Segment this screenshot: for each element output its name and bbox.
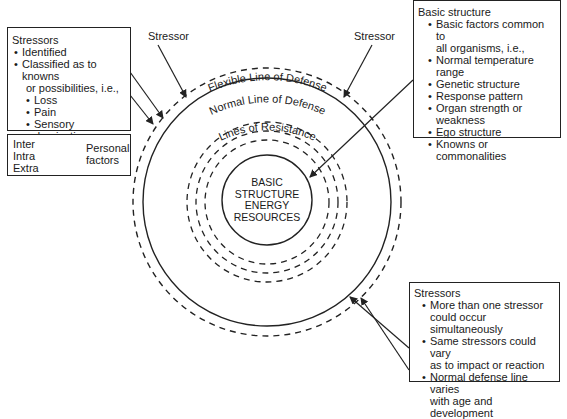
factor-intra: Intra	[13, 150, 39, 162]
factor-extra: Extra	[13, 162, 39, 174]
list-item: or possibilities, i.e.,	[12, 82, 126, 94]
stressor-arrow-top-right	[344, 45, 372, 97]
list-item: Same stressors could vary	[420, 335, 555, 359]
list-item: Identified	[12, 46, 126, 58]
list-item: Organ strength or	[426, 102, 556, 114]
box-title: Stressors	[414, 287, 555, 299]
list-item: Loss	[12, 94, 126, 106]
list-item: Knowns or commonalities	[426, 138, 556, 162]
personal-factors-label: Personal	[86, 142, 129, 154]
center-label: BASIC STRUCTURE ENERGY RESOURCES	[222, 177, 312, 223]
resistance-lines-label: Lines of Resistance	[217, 120, 318, 142]
stressor-arrow-top-left	[158, 45, 186, 97]
stressor-arrow-bottom-right-1	[350, 297, 409, 348]
stressors-box-left: Stressors Identified Classified as to kn…	[7, 27, 131, 131]
factor-inter: Inter	[13, 138, 39, 150]
basic-structure-pointer-arrow	[310, 80, 413, 177]
list-item: Classified as to knowns	[12, 58, 126, 82]
normal-line-label: Normal Line of Defense	[207, 92, 327, 117]
stressor-label-right: Stressor	[354, 30, 395, 42]
basic-structure-box: Basic structure Basic factors common to …	[413, 0, 561, 138]
list-item: Basic factors common to	[426, 18, 556, 42]
list-item: Genetic structure	[426, 78, 556, 90]
box-title: Stressors	[12, 34, 126, 46]
list-item: More than one stressor	[420, 299, 555, 311]
personal-factors-box: Inter Intra Extra Personal factors	[7, 134, 131, 176]
stressor-arrow-bottom-right-2	[361, 298, 409, 370]
list-item: Pain	[12, 106, 126, 118]
stressor-arrow-left-1	[130, 72, 163, 118]
stressors-box-right: Stressors More than one stressor could o…	[409, 282, 560, 382]
stressor-label-left: Stressor	[148, 30, 189, 42]
box-title: Basic structure	[418, 6, 556, 18]
list-item: Response pattern	[426, 90, 556, 102]
flexible-line-label: Flexible Line of Defense	[206, 70, 329, 93]
list-item: Normal defense line varies	[420, 371, 555, 395]
list-item: Ego structure	[426, 126, 556, 138]
list-item: Normal temperature	[426, 54, 556, 66]
